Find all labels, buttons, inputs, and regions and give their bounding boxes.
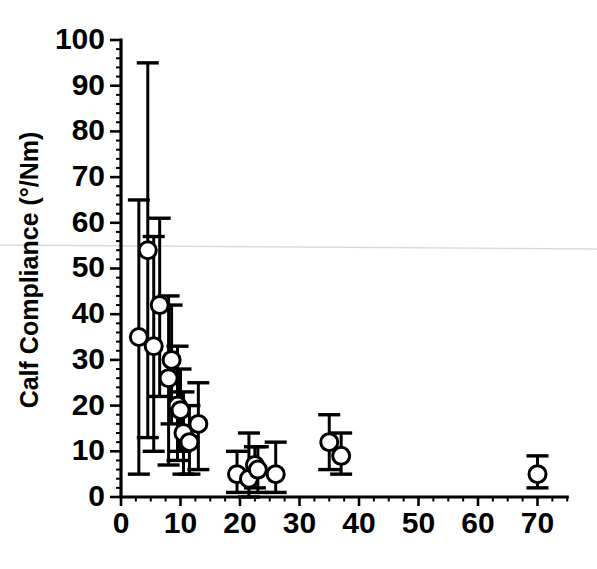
scan-artifact-line	[0, 245, 597, 249]
y-tick-label: 40	[72, 296, 105, 329]
data-point-marker	[181, 434, 198, 451]
x-tick-label: 70	[521, 506, 554, 539]
y-tick-label: 10	[72, 433, 105, 466]
y-tick-label: 60	[72, 205, 105, 238]
data-point-marker	[333, 447, 350, 464]
data-point-marker	[267, 466, 284, 483]
y-axis-ticks	[110, 40, 121, 497]
data-point-marker	[249, 461, 266, 478]
data-point-markers	[130, 242, 546, 488]
data-point-marker	[190, 415, 207, 432]
y-tick-label: 70	[72, 159, 105, 192]
x-tick-label: 40	[342, 506, 375, 539]
y-axis-title-text: Calf Compliance (°/Nm)	[15, 132, 43, 409]
x-axis-tick-labels: 010203040506070	[113, 506, 555, 539]
data-point-marker	[139, 242, 156, 259]
screenshot-page: 0102030405060708090100 010203040506070 C…	[0, 0, 597, 569]
x-tick-label: 50	[402, 506, 435, 539]
y-axis-title: Calf Compliance (°/Nm)	[15, 132, 43, 409]
data-point-marker	[151, 297, 168, 314]
y-tick-label: 20	[72, 388, 105, 421]
plot-canvas: 0102030405060708090100 010203040506070 C…	[0, 0, 597, 569]
scatter-plot-figure: 0102030405060708090100 010203040506070 C…	[0, 0, 597, 569]
data-point-marker	[529, 466, 546, 483]
data-point-marker	[145, 338, 162, 355]
data-point-marker	[163, 351, 180, 368]
y-axis-tick-labels: 0102030405060708090100	[55, 22, 105, 512]
y-tick-label: 0	[88, 479, 105, 512]
y-tick-label: 30	[72, 342, 105, 375]
data-point-marker	[160, 370, 177, 387]
data-point-marker	[172, 402, 189, 419]
y-tick-label: 50	[72, 250, 105, 283]
y-tick-label: 80	[72, 113, 105, 146]
x-tick-label: 20	[223, 506, 256, 539]
x-tick-label: 60	[461, 506, 494, 539]
x-tick-label: 30	[283, 506, 316, 539]
x-tick-label: 0	[113, 506, 130, 539]
x-tick-label: 10	[164, 506, 197, 539]
y-tick-label: 100	[55, 22, 105, 55]
y-tick-label: 90	[72, 68, 105, 101]
